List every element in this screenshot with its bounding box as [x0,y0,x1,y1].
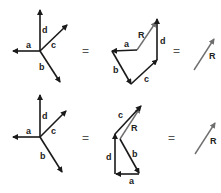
label-a: a [124,39,130,49]
label-b: b [132,149,138,159]
label-d: d [160,36,166,46]
label-b: b [40,151,46,161]
label-R: R [131,123,138,133]
vector-a-arrow [112,50,137,51]
polygon-vectors-1: R a b c d [112,19,166,84]
polygon-vectors-2: c R d b a [106,106,141,186]
label-c: c [118,110,123,120]
label-c: c [144,74,149,84]
label-d: d [106,152,112,162]
equals-sign: = [82,131,89,145]
resultant-2: R [195,123,217,154]
resultant-1: R [194,39,216,70]
vector-addition-diagram: a d c b = R a b c d = R [0,0,221,193]
concurrent-vectors-1: a d c b [13,10,67,82]
label-c: c [51,40,56,50]
label-b: b [113,65,119,75]
row-2: a d c b = c R d b a = R [13,95,217,186]
label-b: b [39,62,45,72]
label-a: a [26,40,32,50]
label-R: R [138,30,145,40]
label-a: a [26,126,32,136]
equals-sign: = [173,44,180,58]
label-c: c [51,126,56,136]
equals-sign: = [82,44,89,58]
label-d: d [42,25,48,35]
label-R: R [209,51,216,61]
label-R: R [210,136,217,146]
equals-sign: = [168,131,175,145]
concurrent-vectors-2: a d c b [13,95,66,172]
label-d: d [42,111,48,121]
row-1: a d c b = R a b c d = R [13,10,216,84]
label-a: a [129,176,135,186]
